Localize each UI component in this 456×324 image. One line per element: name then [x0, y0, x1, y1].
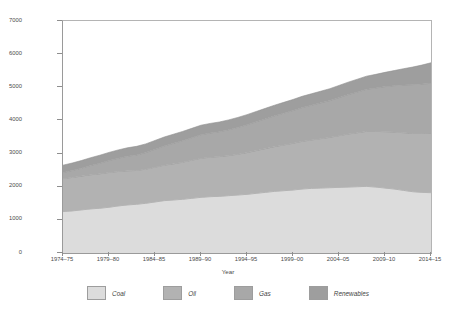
legend-item-gas: Gas — [234, 286, 271, 300]
legend-item-renewables: Renewables — [309, 286, 369, 300]
y-axis-tick-label: 4000 — [0, 116, 22, 122]
y-axis-tick-mark — [57, 153, 62, 154]
y-axis-tick-mark — [57, 86, 62, 87]
y-axis-tick-mark — [57, 119, 62, 120]
x-axis-tick-mark — [430, 252, 431, 256]
y-axis-tick-mark — [57, 219, 62, 220]
x-axis-tick-mark — [292, 252, 293, 256]
x-axis-tick-mark — [154, 252, 155, 256]
x-axis-tick-label: 2014–15 — [400, 256, 456, 262]
x-axis-title: Year — [0, 268, 456, 275]
x-axis-tick-mark — [338, 252, 339, 256]
chart-legend: CoalOilGasRenewables — [0, 286, 456, 300]
legend-swatch-oil — [163, 286, 182, 300]
legend-swatch-gas — [234, 286, 253, 300]
y-axis-tick-mark — [57, 20, 62, 21]
legend-swatch-coal — [87, 286, 106, 300]
x-axis-tick-mark — [246, 252, 247, 256]
legend-label: Oil — [188, 290, 196, 297]
legend-label: Coal — [112, 290, 125, 297]
y-axis-tick-mark — [57, 53, 62, 54]
x-axis-tick-mark — [200, 252, 201, 256]
legend-item-coal: Coal — [87, 286, 125, 300]
y-axis-tick-label: 3000 — [0, 149, 22, 155]
y-axis-tick-label: 1000 — [0, 215, 22, 221]
x-axis-tick-mark — [108, 252, 109, 256]
y-axis-tick-label: 5000 — [0, 83, 22, 89]
y-axis-tick-label: 7000 — [0, 17, 22, 23]
stacked-area-chart — [63, 21, 431, 253]
x-axis-tick-mark — [384, 252, 385, 256]
legend-swatch-renewables — [309, 286, 328, 300]
plot-area — [62, 20, 432, 254]
legend-label: Gas — [259, 290, 271, 297]
y-axis-tick-label: 6000 — [0, 50, 22, 56]
y-axis-tick-label: 0 — [0, 249, 22, 255]
legend-item-oil: Oil — [163, 286, 196, 300]
y-axis-tick-label: 2000 — [0, 182, 22, 188]
x-axis-tick-mark — [62, 252, 63, 256]
legend-label: Renewables — [334, 290, 369, 297]
figure-container: Australian primary energy consumption (P… — [0, 0, 456, 324]
y-axis-tick-mark — [57, 186, 62, 187]
